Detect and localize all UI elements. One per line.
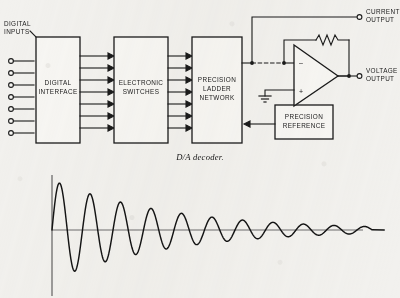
resistor-zigzag [316,35,349,45]
noninverting-to-ground-lead [265,90,294,96]
block-digital-interface-line1: DIGITAL [45,79,72,86]
digital-input-terminal [9,131,34,136]
figure-caption: D/A decoder. [175,152,224,162]
bus-arrow [168,65,192,71]
bus-arrow [80,125,114,131]
block-precision-reference-line1: PRECISION [285,113,323,120]
current-output-label-line1: CURRENT [366,8,400,15]
block-electronic-switches-line2: SWITCHES [123,88,160,95]
voltage-output-label-line1: VOLTAGE [366,67,398,74]
reference-to-ladder-arrow [244,121,275,127]
bus-arrow [168,53,192,59]
digital-inputs-label-line1: DIGITAL [4,20,31,27]
op-amp-inverting-sign: – [299,59,303,66]
block-precision-reference[interactable]: PRECISION REFERENCE [275,105,333,139]
bus-arrow [80,101,114,107]
bus-arrow [168,89,192,95]
digital-input-terminal [9,71,34,76]
voltage-output-label-line2: OUTPUT [366,75,394,82]
bus-arrows-stage1 [80,53,114,131]
block-digital-interface-line2: INTERFACE [38,88,77,95]
bus-arrow [168,125,192,131]
waveform-trace [52,183,384,271]
block-precision-reference-line2: REFERENCE [283,122,326,129]
damped-oscillation-plot [52,175,384,296]
input-label-leader [30,31,36,37]
bus-arrow [80,53,114,59]
scanned-figure-page: DIGITAL INPUTS DIGITAL INTERFACE [0,0,400,298]
block-electronic-switches-line1: ELECTRONIC [119,79,164,86]
digital-inputs-label-line2: INPUTS [4,28,30,35]
block-electronic-switches[interactable]: ELECTRONIC SWITCHES [114,37,168,143]
bus-arrow [80,113,114,119]
bus-arrow [168,101,192,107]
voltage-feedback-tap-dot [347,74,351,78]
output-terminal-current[interactable] [357,15,362,20]
bus-arrow [168,77,192,83]
ground-icon [259,96,271,102]
bus-arrow [80,65,114,71]
bus-arrow [80,89,114,95]
block-precision-ladder-network[interactable]: PRECISION LADDER NETWORK [192,37,242,143]
bus-arrows-stage2 [168,53,192,131]
block-diagram-group: DIGITAL INPUTS DIGITAL INTERFACE [4,8,400,143]
bus-arrow [80,77,114,83]
digital-input-terminal [9,119,34,124]
digital-input-terminal [9,95,34,100]
output-terminal-voltage[interactable] [357,74,362,79]
block-precision-ladder-line3: NETWORK [199,94,234,101]
bus-arrow [168,113,192,119]
op-amp-noninverting-sign: + [299,88,303,95]
current-output-label-line2: OUTPUT [366,16,394,23]
figure-canvas: DIGITAL INPUTS DIGITAL INTERFACE [0,0,400,298]
block-precision-ladder-line2: LADDER [203,85,231,92]
digital-input-terminals[interactable] [9,59,34,136]
digital-input-terminal [9,83,34,88]
op-amp[interactable]: – + [294,45,338,106]
block-precision-ladder-line1: PRECISION [198,76,236,83]
digital-input-terminal [9,107,34,112]
block-digital-interface[interactable]: DIGITAL INTERFACE [36,37,80,143]
digital-input-terminal [9,59,34,64]
